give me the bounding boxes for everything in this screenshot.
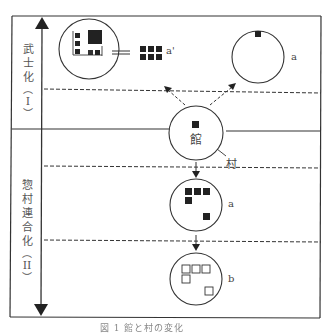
stage-I-char: 武 xyxy=(21,43,35,57)
a-top-label: a xyxy=(291,51,297,62)
paren-open: ︵ xyxy=(20,249,34,259)
arrow-down-2-head-icon xyxy=(192,244,200,251)
arrow-to-left xyxy=(168,90,185,105)
village-pointer xyxy=(217,149,226,156)
bottom-hollow-blocks xyxy=(182,265,213,295)
top-right-circle xyxy=(232,31,284,83)
hall-block xyxy=(192,121,199,128)
hall-label: 館 xyxy=(190,130,202,147)
stage-II-char: 化 xyxy=(20,235,34,249)
dashed-line-1 xyxy=(44,89,321,93)
stage-I-numeral: I xyxy=(21,95,35,109)
arrow-to-right xyxy=(210,87,232,105)
top-right-block xyxy=(255,31,261,37)
b-label: b xyxy=(228,273,234,284)
mid-circle xyxy=(170,179,222,231)
axis-arrow-up-icon xyxy=(35,17,49,29)
arrow-down-1-head-icon xyxy=(192,171,200,178)
compound-blocks xyxy=(73,30,102,56)
stage-I-label: 武 士 化 ︵ I ︶ xyxy=(21,43,35,119)
village-label: 村 xyxy=(226,155,237,171)
stage-II-label: 惣 村 連 合 化 ︵ II ︶ xyxy=(20,179,34,283)
time-axis xyxy=(41,28,42,305)
dashed-line-3 xyxy=(44,240,321,242)
dashed-line-2 xyxy=(44,166,321,168)
stage-II-char: 惣 xyxy=(20,179,34,193)
stage-I-char: 士 xyxy=(21,57,35,71)
axis-arrow-down-icon xyxy=(34,304,48,316)
stage-II-char: 村 xyxy=(20,193,34,207)
stage-II-numeral: II xyxy=(20,259,34,273)
arrow-left-head-icon xyxy=(164,86,172,93)
stage-II-char: 連 xyxy=(20,207,34,221)
a-mid-label: a xyxy=(228,198,234,209)
stage-II-char: 合 xyxy=(20,221,34,235)
a-prime-label: a' xyxy=(166,45,175,56)
frame-left xyxy=(10,16,12,317)
figure-caption: 図 1 館と村の変化 xyxy=(100,321,184,334)
bottom-circle xyxy=(170,253,222,305)
paren-open: ︵ xyxy=(21,85,35,95)
frame-bottom xyxy=(10,317,320,318)
paren-close: ︶ xyxy=(21,109,35,119)
paren-close: ︶ xyxy=(20,273,34,283)
stage-I-char: 化 xyxy=(21,71,35,85)
frame-right xyxy=(320,16,321,318)
mid-blocks xyxy=(185,188,210,220)
warrior-compound-circle xyxy=(59,19,119,79)
a-prime-blocks xyxy=(140,46,162,60)
